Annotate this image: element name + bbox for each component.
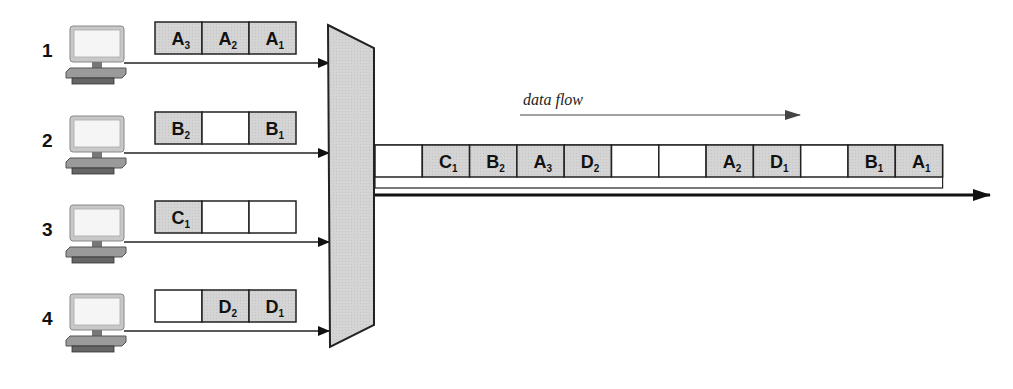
slot-subscript: 3 [185, 40, 191, 51]
slot-label: D [770, 152, 783, 172]
slot-label: A [266, 29, 279, 49]
slot-label: B [865, 152, 878, 172]
computer-icon [66, 294, 126, 352]
source-number: 3 [42, 219, 53, 240]
slot-subscript: 2 [232, 308, 238, 319]
stream-slot [375, 145, 422, 177]
buffer-slot [202, 112, 249, 144]
buffer-slot [249, 201, 296, 233]
slot-subscript: 2 [499, 163, 505, 174]
stream-slot [659, 145, 706, 177]
buffer-slot [155, 290, 202, 322]
slot-label: A [723, 152, 736, 172]
stream-slot: A1 [895, 145, 942, 177]
slot-label: D [581, 152, 594, 172]
stream-slot [612, 145, 659, 177]
slot-label: C [439, 152, 452, 172]
source-number: 4 [42, 308, 53, 329]
slot-subscript: 1 [279, 130, 285, 141]
slot-label: D [266, 297, 279, 317]
stream-slot: A2 [706, 145, 753, 177]
stream-slot: D2 [564, 145, 611, 177]
stream-slot: C1 [422, 145, 469, 177]
tdm-diagram: 1A3A2A12B2B13C14D2D1 data flow C1B2A3D2A… [0, 0, 1013, 389]
slot-subscript: 3 [547, 163, 553, 174]
buffer-slot: A1 [249, 22, 296, 54]
source-3: 3C1 [42, 201, 329, 263]
stream-slot: D1 [753, 145, 800, 177]
source-1: 1A3A2A1 [42, 22, 329, 84]
multiplexer [328, 25, 374, 347]
slot-subscript: 2 [185, 130, 191, 141]
computer-icon [66, 26, 126, 84]
slot-label: C [172, 208, 185, 228]
buffer-slot: A2 [202, 22, 249, 54]
slot-label: A [912, 152, 925, 172]
source-number: 2 [42, 130, 53, 151]
slot-subscript: 1 [925, 163, 931, 174]
slot-subscript: 2 [594, 163, 600, 174]
data-flow-label: data flow [523, 91, 583, 109]
buffer-slot: A3 [155, 22, 202, 54]
stream-slot: B2 [470, 145, 517, 177]
stream-slot [801, 145, 848, 177]
slot-label: D [219, 297, 232, 317]
slot-subscript: 1 [783, 163, 789, 174]
buffer-slot: C1 [155, 201, 202, 233]
slot-label: A [219, 29, 232, 49]
slot-label: B [486, 152, 499, 172]
output-stream: C1B2A3D2A2D1B1A1 [375, 145, 943, 188]
sources: 1A3A2A12B2B13C14D2D1 [42, 22, 329, 352]
slot-subscript: 1 [185, 219, 191, 230]
slot-subscript: 2 [736, 163, 742, 174]
buffer-slot: D1 [249, 290, 296, 322]
buffer-slot: D2 [202, 290, 249, 322]
computer-icon [66, 205, 126, 263]
source-2: 2B2B1 [42, 112, 329, 174]
slot-subscript: 1 [279, 40, 285, 51]
buffer-slot: B2 [155, 112, 202, 144]
slot-subscript: 2 [232, 40, 238, 51]
slot-label: B [266, 119, 279, 139]
stream-slot: B1 [848, 145, 895, 177]
source-4: 4D2D1 [42, 290, 329, 352]
slot-label: A [534, 152, 547, 172]
computer-icon [66, 116, 126, 174]
slot-subscript: 1 [452, 163, 458, 174]
buffer-slot: B1 [249, 112, 296, 144]
stream-slot: A3 [517, 145, 564, 177]
slot-label: B [172, 119, 185, 139]
source-number: 1 [42, 40, 53, 61]
slot-subscript: 1 [878, 163, 884, 174]
buffer-slot [202, 201, 249, 233]
slot-subscript: 1 [279, 308, 285, 319]
slot-label: A [172, 29, 185, 49]
